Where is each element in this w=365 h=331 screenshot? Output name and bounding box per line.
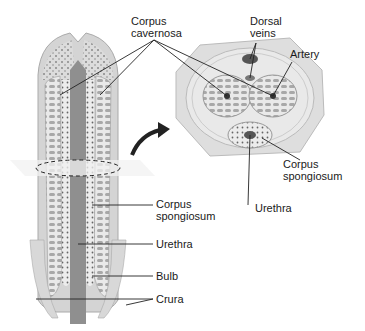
label-corpus-cavernosa-line2: cavernosa — [131, 27, 182, 39]
label-corpus-cavernosa-line1: Corpus — [131, 15, 166, 27]
label-long-urethra: Urethra — [156, 238, 193, 250]
label-dorsal-veins-line1: Dorsal — [250, 15, 282, 27]
label-dorsal-veins-line2: veins — [250, 27, 276, 39]
label-artery: Artery — [290, 48, 319, 60]
curved-arrow-icon — [132, 130, 160, 155]
diagram-canvas: Corpus cavernosa Dorsal veins Artery Cor… — [0, 0, 365, 331]
label-cross-corpus-spongiosum-line2: spongiosum — [283, 170, 342, 182]
label-long-corpus-spongiosum-line1: Corpus — [156, 198, 191, 210]
longitudinal-section — [10, 33, 155, 324]
label-cross-urethra: Urethra — [255, 202, 292, 214]
label-bulb: Bulb — [156, 270, 178, 282]
label-long-corpus-spongiosum-line2: spongiosum — [156, 210, 215, 222]
label-cross-corpus-spongiosum-line1: Corpus — [283, 158, 318, 170]
label-crura: Crura — [156, 293, 184, 305]
